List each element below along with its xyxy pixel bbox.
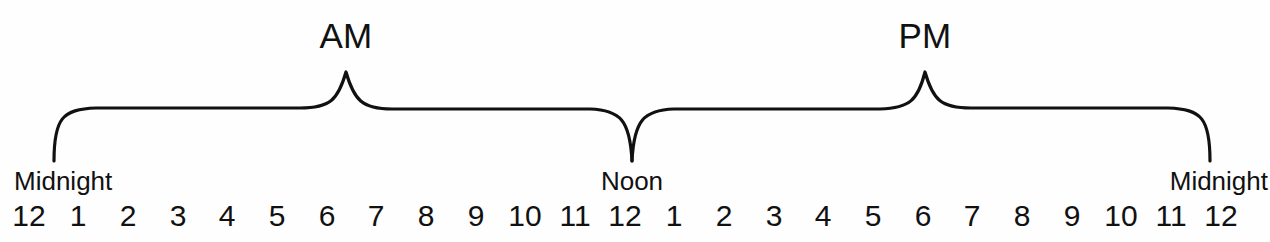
hour-tick: 2 [716,201,733,231]
hour-tick: 4 [219,201,236,231]
hour-tick: 8 [1014,201,1031,231]
hour-tick: 12 [1204,201,1237,231]
hour-tick: 3 [170,201,187,231]
hour-tick: 11 [559,201,590,231]
hour-tick: 10 [1104,201,1137,231]
hour-tick: 8 [418,201,435,231]
period-label-am: AM [320,18,373,53]
clock-period-diagram: AM PM Midnight Noon Midnight 12123456789… [0,0,1270,242]
hour-tick: 10 [508,201,541,231]
pm-brace-path [632,72,1210,161]
hour-tick: 1 [70,201,87,231]
hour-tick: 5 [269,201,286,231]
hour-tick: 7 [964,201,981,231]
hour-tick: 5 [865,201,882,231]
hour-tick: 12 [12,201,45,231]
hour-tick: 2 [120,201,137,231]
hour-tick-row: 12123456789101112123456789101112 [0,201,1270,241]
hour-tick: 4 [815,201,832,231]
hour-tick: 6 [915,201,932,231]
hour-tick: 7 [368,201,385,231]
hour-tick: 9 [468,201,485,231]
hour-tick: 9 [1064,201,1081,231]
hour-tick: 3 [766,201,783,231]
hour-tick: 6 [319,201,336,231]
hour-tick: 11 [1155,201,1186,231]
period-label-pm: PM [899,18,952,53]
boundary-label-noon: Noon [601,168,663,194]
hour-tick: 1 [666,201,683,231]
boundary-label-midnight-end: Midnight [1170,168,1268,194]
am-brace-path [54,72,632,161]
boundary-label-midnight-start: Midnight [14,168,112,194]
hour-tick: 12 [608,201,641,231]
